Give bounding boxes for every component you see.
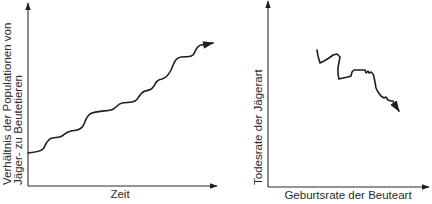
right-chart: Geburtsrate der Beuteart Todesrate der J… xyxy=(252,1,429,201)
diagram-canvas: Zeit Verhältnis der Populationen von Jäg… xyxy=(0,0,432,204)
left-chart: Zeit Verhältnis der Populationen von Jäg… xyxy=(1,3,217,200)
left-curve xyxy=(28,43,213,153)
right-curve xyxy=(317,50,399,111)
left-x-axis-label: Zeit xyxy=(110,188,130,200)
right-y-axis-label: Todesrate der Jägerart xyxy=(252,68,264,185)
right-x-axis-label: Geburtsrate der Beuteart xyxy=(284,189,412,201)
left-y-axis-label-line2: Jäger- zu Beutetieren xyxy=(12,75,24,185)
